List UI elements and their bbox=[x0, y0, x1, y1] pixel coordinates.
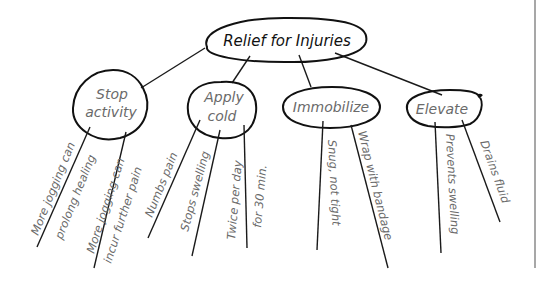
root-edges bbox=[141, 48, 442, 95]
edge-root-immobilize bbox=[299, 55, 311, 87]
root-label: Relief for Injuries bbox=[223, 32, 351, 50]
edge-immobilize-leaf-1 bbox=[317, 121, 323, 250]
edge-cold-leaf-3 bbox=[244, 125, 247, 248]
apply-cold-label-line2: cold bbox=[207, 108, 236, 124]
edge-elevate-leaf-1 bbox=[435, 122, 441, 253]
leaf-wrap-with-bandage: Wrap with bandage bbox=[355, 129, 396, 241]
elevate-label: Elevate bbox=[416, 101, 468, 117]
stop-activity-label-line2: activity bbox=[85, 104, 137, 120]
leaf-twice-per-day-1: Twice per day bbox=[224, 159, 245, 240]
mind-map-diagram: Relief for Injuries Stop activity More j… bbox=[0, 0, 551, 287]
branch-stop-activity: Stop activity More jogging can prolong h… bbox=[28, 70, 147, 268]
leaf-twice-per-day-2: for 30 min. bbox=[250, 164, 269, 228]
immobilize-label: Immobilize bbox=[293, 99, 370, 115]
branch-immobilize: Immobilize Snug, not tight Wrap with ban… bbox=[283, 87, 396, 268]
edge-root-stop-activity bbox=[141, 48, 205, 88]
stop-activity-label-line1: Stop bbox=[96, 86, 128, 102]
branch-apply-cold: Apply cold Numbs pain Stops swelling Twi… bbox=[142, 82, 270, 256]
branch-elevate: Elevate Prevents swelling Drains fluid bbox=[407, 90, 513, 253]
leaf-snug-not-tight: Snug, not tight bbox=[325, 139, 343, 226]
leaf-drains-fluid: Drains fluid bbox=[477, 138, 513, 205]
leaf-prevents-swelling: Prevents swelling bbox=[443, 133, 462, 234]
apply-cold-label-line1: Apply bbox=[203, 89, 244, 105]
